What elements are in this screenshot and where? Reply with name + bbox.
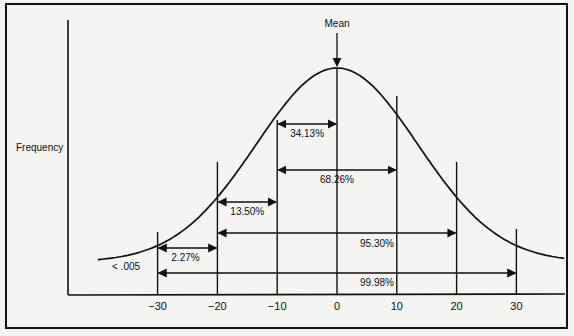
x-tick-label: −10 [268,300,287,312]
x-tick-label: 0 [334,300,340,312]
percent-label: 95.30% [360,238,394,249]
percent-label: 2.27% [171,252,199,263]
x-axis [68,294,565,295]
normal-distribution-chart: 34.13%68.26%13.50%95.30%2.27%99.98% Freq… [0,0,574,336]
percent-label: 13.50% [230,206,264,217]
x-tick-label: 20 [450,300,462,312]
y-axis-label: Frequency [16,142,63,153]
bell-curve [98,68,564,260]
bell-curve-path [98,68,564,260]
x-tick-label: 30 [510,300,522,312]
percent-label: 68.26% [320,174,354,185]
axes [68,20,565,295]
sd-lines [158,33,517,295]
mean-label: Mean [324,18,349,29]
percent-label: 99.98% [360,277,394,288]
labels: Frequency Mean < .005 [16,18,350,272]
x-tick-label: 10 [391,300,403,312]
tail-label: < .005 [112,261,141,272]
x-tick-label: −30 [148,300,167,312]
x-tick-labels: −30−20−100102030 [148,300,522,312]
x-tick-label: −20 [208,300,227,312]
percent-label: 34.13% [290,128,324,139]
